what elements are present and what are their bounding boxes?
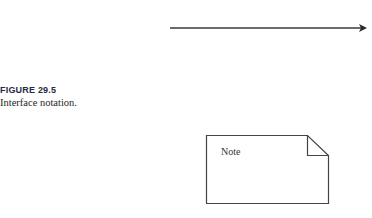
figure-caption: FIGURE 29.5 Interface notation. xyxy=(0,85,77,108)
arrow xyxy=(170,24,367,32)
diagram: Note xyxy=(0,0,372,218)
note-label: Note xyxy=(221,146,241,157)
figure-caption-text: Interface notation. xyxy=(0,97,77,108)
figure-number: FIGURE 29.5 xyxy=(0,85,77,96)
figure-canvas: Note FIGURE 29.5 Interface notation. xyxy=(0,0,372,218)
note-shape: Note xyxy=(207,136,329,204)
